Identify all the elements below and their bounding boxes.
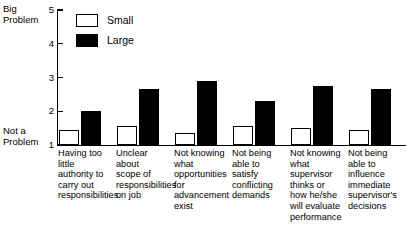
bar-group (289, 10, 347, 145)
x-axis-category-label: Unclear about scope of responsibilities … (116, 148, 172, 201)
bar-large (313, 86, 333, 145)
bar-group (115, 10, 173, 145)
y-axis-tick-label-5: 5 (42, 5, 54, 15)
x-axis-category-label: Not knowing what supervisor thinks or ho… (290, 148, 346, 222)
x-axis-category-label: Having too little authority to carry out… (58, 148, 114, 201)
y-axis-top-annotation: Big Problem (3, 4, 38, 25)
bar-large (371, 89, 391, 145)
x-axis-category-label: Not being able to influence immediate su… (348, 148, 404, 212)
y-axis-tick-label-1: 1 (42, 140, 54, 150)
bar-small (59, 130, 79, 145)
x-axis-category-label: Not knowing what opportunities for advan… (174, 148, 230, 212)
y-axis-tick-label-3: 3 (42, 73, 54, 83)
bar-large (139, 89, 159, 145)
bar-large (197, 81, 217, 145)
bar-group (57, 10, 115, 145)
bar-group (231, 10, 289, 145)
bar-chart: Big Problem Not a Problem 12345 Small La… (0, 0, 410, 244)
plot-area (57, 10, 405, 145)
bar-large (255, 101, 275, 145)
bar-group (173, 10, 231, 145)
bar-small (233, 126, 253, 145)
bar-small (117, 126, 137, 145)
y-axis-tick-label-4: 4 (42, 39, 54, 49)
bar-small (175, 133, 195, 145)
bar-small (291, 128, 311, 145)
y-axis-tick-label-2: 2 (42, 106, 54, 116)
y-axis-bottom-annotation: Not a Problem (3, 126, 38, 147)
bar-small (349, 130, 369, 145)
x-axis-category-labels: Having too little authority to carry out… (57, 148, 407, 240)
bar-group (347, 10, 405, 145)
bar-large (81, 111, 101, 145)
x-axis-category-label: Not being able to satisfy conflicting de… (232, 148, 288, 201)
